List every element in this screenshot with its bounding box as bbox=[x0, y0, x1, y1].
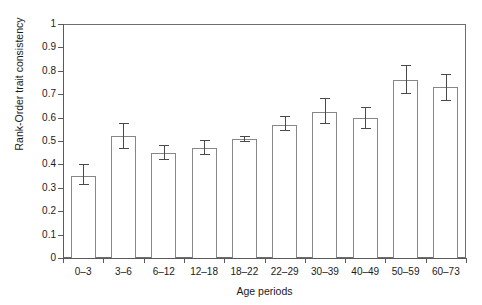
x-tick-mark bbox=[305, 258, 306, 263]
error-bar-cap-lower bbox=[240, 141, 250, 142]
x-tick-label: 40–49 bbox=[351, 266, 379, 277]
error-bar-line bbox=[325, 98, 326, 124]
x-tick-label: 60–73 bbox=[432, 266, 460, 277]
x-tick-mark bbox=[466, 258, 467, 263]
y-tick-mark bbox=[58, 71, 63, 72]
bar bbox=[151, 153, 176, 258]
error-bar-line bbox=[123, 123, 124, 148]
y-tick-label: 0.7 bbox=[20, 89, 56, 99]
bar bbox=[232, 139, 257, 258]
x-tick-mark bbox=[224, 258, 225, 263]
y-tick-label: 0.8 bbox=[20, 66, 56, 76]
bar bbox=[192, 148, 217, 258]
error-bar-cap-upper bbox=[280, 116, 290, 117]
y-tick-label: 0.5 bbox=[20, 136, 56, 146]
x-tick-mark bbox=[103, 258, 104, 263]
y-tick-mark bbox=[58, 118, 63, 119]
y-tick-mark bbox=[58, 24, 63, 25]
bar bbox=[433, 87, 458, 258]
bar bbox=[312, 112, 337, 258]
x-tick-label: 12–18 bbox=[190, 266, 218, 277]
error-bar-cap-lower bbox=[320, 123, 330, 124]
error-bar-cap-upper bbox=[441, 74, 451, 75]
y-tick-mark bbox=[58, 164, 63, 165]
y-tick-label: 0.6 bbox=[20, 113, 56, 123]
y-tick-mark bbox=[58, 211, 63, 212]
y-tick-label: 1 bbox=[20, 19, 56, 29]
x-tick-mark bbox=[265, 258, 266, 263]
y-tick-mark bbox=[58, 47, 63, 48]
error-bar-line bbox=[285, 116, 286, 130]
bar bbox=[353, 118, 378, 258]
error-bar-cap-upper bbox=[401, 65, 411, 66]
y-tick-mark bbox=[58, 235, 63, 236]
error-bar-cap-lower bbox=[79, 184, 89, 185]
x-tick-label: 6–12 bbox=[153, 266, 175, 277]
y-tick-label: 0.1 bbox=[20, 230, 56, 240]
x-tick-mark bbox=[144, 258, 145, 263]
x-tick-mark bbox=[426, 258, 427, 263]
x-tick-mark bbox=[345, 258, 346, 263]
error-bar-line bbox=[204, 140, 205, 154]
x-tick-label: 3–6 bbox=[115, 266, 132, 277]
error-bar-cap-lower bbox=[441, 100, 451, 101]
x-tick-label: 22–29 bbox=[271, 266, 299, 277]
y-axis-spine bbox=[63, 24, 64, 259]
error-bar-line bbox=[406, 65, 407, 93]
error-bar-line bbox=[164, 145, 165, 159]
error-bar-line bbox=[83, 164, 84, 184]
error-bar-cap-upper bbox=[159, 145, 169, 146]
error-bar-cap-lower bbox=[200, 154, 210, 155]
x-tick-label: 30–39 bbox=[311, 266, 339, 277]
bar bbox=[111, 136, 136, 258]
error-bar-cap-lower bbox=[361, 128, 371, 129]
y-tick-mark bbox=[58, 188, 63, 189]
y-tick-label: 0.4 bbox=[20, 159, 56, 169]
error-bar-cap-upper bbox=[361, 107, 371, 108]
bar-chart-figure: Rank-Order trait consistency Age periods… bbox=[0, 0, 482, 305]
y-tick-label: 0.3 bbox=[20, 183, 56, 193]
x-tick-label: 18–22 bbox=[230, 266, 258, 277]
error-bar-cap-lower bbox=[280, 130, 290, 131]
x-tick-mark bbox=[63, 258, 64, 263]
bar bbox=[71, 176, 96, 258]
x-tick-label: 0–3 bbox=[75, 266, 92, 277]
error-bar-line bbox=[446, 74, 447, 100]
error-bar-cap-upper bbox=[119, 123, 129, 124]
bar bbox=[272, 125, 297, 258]
x-axis-title: Age periods bbox=[63, 285, 466, 297]
error-bar-cap-lower bbox=[119, 148, 129, 149]
error-bar-line bbox=[365, 107, 366, 128]
y-tick-mark bbox=[58, 94, 63, 95]
error-bar-cap-lower bbox=[159, 159, 169, 160]
error-bar-cap-upper bbox=[79, 164, 89, 165]
error-bar-cap-lower bbox=[401, 93, 411, 94]
x-tick-mark bbox=[184, 258, 185, 263]
bar bbox=[393, 80, 418, 258]
x-tick-mark bbox=[385, 258, 386, 263]
y-tick-mark bbox=[58, 141, 63, 142]
error-bar-cap-upper bbox=[200, 140, 210, 141]
error-bar-cap-upper bbox=[320, 98, 330, 99]
y-tick-label: 0 bbox=[20, 253, 56, 263]
y-tick-label: 0.9 bbox=[20, 42, 56, 52]
y-tick-label: 0.2 bbox=[20, 206, 56, 216]
x-tick-label: 50–59 bbox=[392, 266, 420, 277]
error-bar-cap-upper bbox=[240, 136, 250, 137]
